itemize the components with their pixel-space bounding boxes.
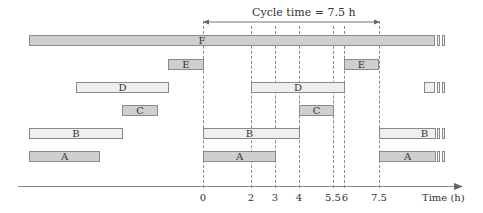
guide-line-6	[344, 26, 345, 188]
bar-b-current-label: B	[246, 129, 253, 139]
bar-a-next: A	[379, 151, 436, 162]
bar-a-current: A	[203, 151, 276, 162]
bar-e-previous: E	[168, 59, 204, 70]
guide-line-7-5	[379, 21, 380, 188]
bar-d-current: D	[251, 82, 345, 93]
time-axis	[18, 186, 458, 187]
bar-a-previous-label: A	[61, 152, 68, 162]
bar-e-current: E	[344, 59, 379, 70]
bar-c-current: C	[299, 105, 334, 116]
time-axis-arrowhead	[454, 182, 464, 191]
bar-a-current-label: A	[236, 152, 243, 162]
break-mark-a-1	[437, 151, 440, 162]
tick-label-5-5: 5.5	[325, 192, 341, 203]
bar-b-previous: B	[29, 128, 123, 139]
tick-label-4: 4	[296, 192, 302, 203]
bar-d-current-label: D	[294, 83, 302, 93]
bar-e-current-label: E	[358, 60, 365, 70]
cycle-time-arrow	[200, 18, 385, 26]
bar-b-next-label: B	[421, 129, 428, 139]
break-mark-f-1	[437, 35, 440, 46]
bar-a-next-label: A	[404, 152, 411, 162]
bar-e-previous-label: E	[182, 60, 189, 70]
bar-b-next: B	[379, 128, 436, 139]
guide-line-2	[251, 26, 252, 188]
guide-line-0	[203, 21, 204, 188]
bar-d-previous-label: D	[118, 83, 126, 93]
break-mark-a-2	[442, 151, 445, 162]
bar-a-previous: A	[29, 151, 100, 162]
break-mark-d-2	[442, 82, 445, 93]
break-mark-d-1	[437, 82, 440, 93]
bar-c-previous-label: C	[136, 106, 144, 116]
break-mark-b-2	[442, 128, 445, 139]
guide-line-3	[275, 26, 276, 188]
tick-label-7-5: 7.5	[371, 192, 387, 203]
break-mark-b-1	[437, 128, 440, 139]
tick-label-6: 6	[342, 192, 348, 203]
bar-c-current-label: C	[313, 106, 321, 116]
axis-label: Time (h)	[422, 192, 465, 203]
tick-label-0: 0	[200, 192, 206, 203]
break-mark-f-2	[442, 35, 445, 46]
bar-d-previous: D	[76, 82, 169, 93]
tick-label-2: 2	[248, 192, 254, 203]
bar-c-previous: C	[122, 105, 158, 116]
bar-f: F	[29, 35, 435, 46]
bar-b-current: B	[203, 128, 300, 139]
bar-d-next	[424, 82, 435, 93]
bar-b-previous-label: B	[72, 129, 79, 139]
tick-label-3: 3	[272, 192, 278, 203]
bar-f-label: F	[199, 36, 206, 46]
